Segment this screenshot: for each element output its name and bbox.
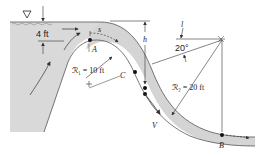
point-b-label: B <box>219 141 224 150</box>
point-c <box>133 70 137 74</box>
free-surface-icon <box>23 11 31 18</box>
l-label: l <box>181 20 184 29</box>
spillway-surface <box>44 40 255 146</box>
radius-2-label: ℛ₂ = 20 ft <box>172 83 205 92</box>
depth-label: 4 ft <box>36 29 49 39</box>
s-label: s <box>98 25 101 34</box>
angle-label: 20° <box>175 43 189 53</box>
h-label: h <box>143 35 147 44</box>
spillway-flow <box>86 22 255 146</box>
velocity-label: V <box>152 121 158 130</box>
point-c-label: C <box>120 71 126 80</box>
radius-1-center <box>86 81 92 87</box>
spillway-diagram: 4 ft s A ℛ₁ = 10 ft C h l 20° ℛ₂ = 20 ft… <box>0 0 261 156</box>
point-b <box>220 133 224 137</box>
point-a-label: A <box>91 45 97 54</box>
point-h <box>143 86 147 90</box>
radius-1-label: ℛ₁ = 10 ft <box>72 66 105 75</box>
point-a <box>88 38 92 42</box>
